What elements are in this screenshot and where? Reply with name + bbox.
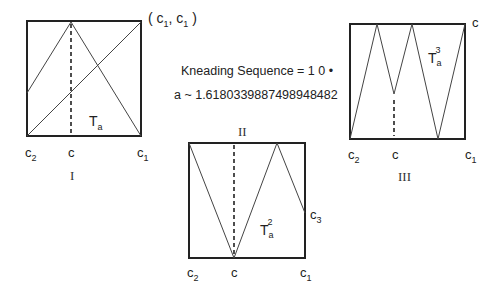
axis-sub: 2 [355, 155, 360, 165]
panel-III-graph [350, 24, 465, 139]
panel-II-axis-left: c2 [187, 266, 199, 283]
comma: , [169, 10, 173, 26]
corner-c: c [157, 10, 164, 26]
side-sub: 3 [317, 215, 322, 225]
panel-III-roman-label: III [398, 170, 411, 183]
panel-II-graph [189, 143, 305, 258]
axis-c: c [231, 265, 238, 280]
panel-II-map-label: Ta2 [260, 222, 279, 240]
panel-I-diagonal [27, 22, 141, 136]
panel-III-axis-right: c1 [465, 148, 477, 165]
paren-close: ) [192, 10, 197, 26]
panel-II-frame [189, 143, 305, 258]
panel-II-axis-mid: c [231, 266, 238, 279]
panel-I-axis-mid: c [68, 146, 75, 159]
corner-sub2: 1 [183, 19, 188, 29]
axis-sub: 1 [472, 155, 477, 165]
map-T: T [89, 113, 98, 129]
panel-II-axis-right: c1 [300, 266, 312, 283]
kneading-sequence-text: Kneading Sequence = 1 0 • [181, 65, 333, 78]
panel-I-corner-label: ( c1, c1 ) [148, 11, 197, 29]
axis-c: c [392, 147, 399, 162]
panel-III-corner-label: c [472, 16, 479, 29]
axis-c: c [68, 145, 75, 160]
panel-I-graph [27, 21, 141, 136]
axis-sub: 1 [307, 273, 312, 283]
panel-I-roman-label: I [70, 169, 74, 182]
panel-III-axis-mid: c [392, 148, 399, 161]
panel-III-curve [350, 24, 465, 139]
panel-III-map-label: Ta3 [428, 50, 447, 68]
panel-I-axis-right: c1 [137, 146, 149, 163]
map-sup: 2 [268, 217, 273, 227]
axis-sub: 2 [32, 153, 37, 163]
map-sub: a [98, 122, 103, 132]
panel-II-curve [189, 143, 305, 258]
map-sub: a [269, 230, 274, 240]
map-sup: 3 [436, 45, 441, 55]
panel-II-side-label: c3 [310, 208, 322, 225]
parameter-value-text: a ~ 1.6180339887498948482 [174, 89, 338, 102]
panel-III-axis-left: c2 [348, 148, 360, 165]
panel-I-map-label: Ta [89, 114, 103, 132]
panel-I-axis-left: c2 [25, 146, 37, 163]
paren-open: ( [148, 10, 153, 26]
axis-sub: 1 [144, 153, 149, 163]
map-sub: a [437, 58, 442, 68]
panel-II-roman-label: II [238, 125, 247, 138]
tent-map-iterates-diagram [0, 0, 502, 295]
axis-sub: 2 [194, 273, 199, 283]
